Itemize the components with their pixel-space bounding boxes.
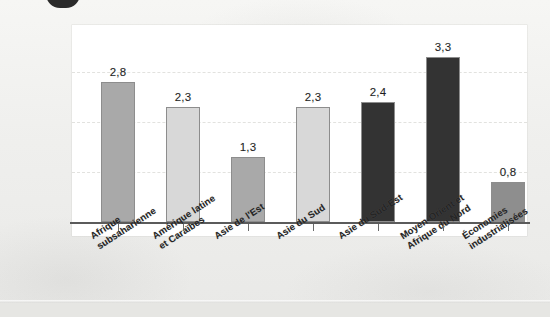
x-axis-tick: [248, 224, 249, 231]
x-axis-tick: [118, 224, 119, 231]
bar-value-label: 2,3: [285, 91, 341, 103]
bar-group: 1,3: [220, 25, 276, 236]
bar-value-label: 3,3: [415, 41, 471, 53]
x-axis-tick: [443, 224, 444, 231]
x-axis-tick: [378, 224, 379, 231]
bar-value-label: 0,8: [480, 166, 536, 178]
category-axis-labels: AfriquesubsaharienneAmérique latineet Ca…: [0, 228, 550, 308]
page-bottom-band: [0, 303, 550, 317]
x-axis-tick: [508, 224, 509, 231]
x-axis-tick: [183, 224, 184, 231]
bar: [101, 82, 135, 222]
bar: [296, 107, 330, 222]
bar-value-label: 2,3: [155, 91, 211, 103]
bar-value-label: 1,3: [220, 141, 276, 153]
x-axis-tick: [313, 224, 314, 231]
bar-value-label: 2,8: [90, 66, 146, 78]
bar-value-label: 2,4: [350, 86, 406, 98]
bar-group: 2,3: [285, 25, 341, 236]
